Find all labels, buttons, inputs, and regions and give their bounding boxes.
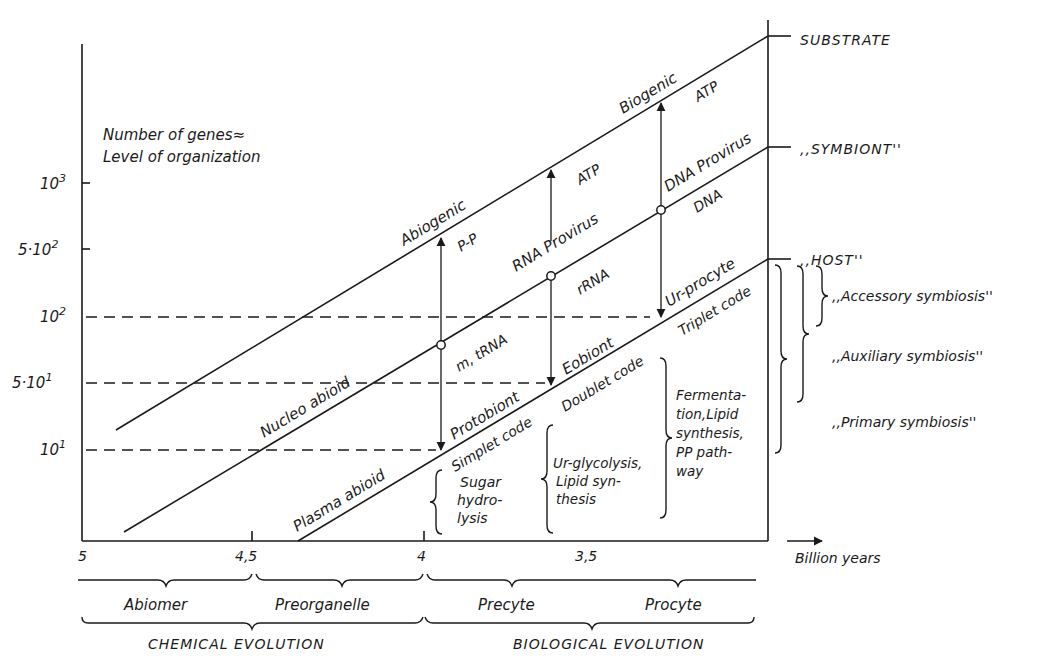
brace-fermentation <box>660 358 672 518</box>
era-biological-evolution: BIOLOGICAL EVOLUTION <box>513 636 704 652</box>
sugar-line-3: lysis <box>457 510 488 526</box>
brace-primary <box>775 265 787 453</box>
symbiosis-annotations: ,,Accessory symbiosis'' ,,Auxiliary symb… <box>775 265 993 453</box>
stage-preorganelle: Preorganelle <box>275 596 370 614</box>
level-symbiont: ,,SYMBIONT'' <box>800 141 902 157</box>
node-circle <box>657 206 665 214</box>
label-m-trna: m, tRNA <box>452 331 510 375</box>
x-tick-label: 5 <box>78 548 87 564</box>
label-pp: P-P <box>454 230 481 255</box>
fermentation-line-4: PP path- <box>676 444 732 460</box>
label-auxiliary-symbiosis: ,,Auxiliary symbiosis'' <box>832 348 983 364</box>
brace-glycolysis <box>541 425 553 533</box>
y-tick-labels: 103 5·102 102 5·101 101 <box>12 172 66 459</box>
x-tick-label: 4 <box>417 548 426 564</box>
node-circle <box>437 341 445 349</box>
stage-procyte: Procyte <box>645 596 702 614</box>
brace-chemical-evolution <box>82 617 423 629</box>
y-tick-label: 5·101 <box>12 371 52 392</box>
fermentation-line-3: synthesis, <box>676 425 744 441</box>
brace-precyte <box>427 574 600 586</box>
evolution-lines <box>116 36 768 541</box>
substrate-line <box>116 36 768 430</box>
glycolysis-line-2: Lipid syn- <box>556 473 621 489</box>
evolution-diagram: Number of genes≈ Level of organization 1… <box>0 0 1046 672</box>
brace-sugar <box>430 470 442 534</box>
y-tick-label: 101 <box>40 438 66 459</box>
label-biogenic: Biogenic <box>616 68 681 117</box>
label-primary-symbiosis: ,,Primary symbiosis'' <box>832 414 976 430</box>
stage-abiomer: Abiomer <box>123 596 188 614</box>
fermentation-line-5: way <box>676 463 704 479</box>
brace-biological-evolution <box>425 617 754 629</box>
y-axis-title-1: Number of genes≈ <box>103 126 245 144</box>
x-axis-label: Billion years <box>795 550 881 566</box>
x-tick-label: 3,5 <box>575 548 597 564</box>
sugar-line-2: hydro- <box>457 492 502 508</box>
y-axis-title-2: Level of organization <box>103 148 260 166</box>
gridlines <box>86 317 650 450</box>
label-dna-provirus: DNA Provirus <box>661 129 755 196</box>
arrows <box>437 103 665 450</box>
x-tick-label: 4,5 <box>235 548 257 564</box>
label-rna-provirus: RNA Provirus <box>509 209 602 275</box>
brace-auxiliary <box>797 266 809 402</box>
brace-preorganelle <box>256 574 423 586</box>
glycolysis-line-3: thesis <box>556 491 596 507</box>
stage-precyte: Precyte <box>478 596 535 614</box>
label-atp-1: ATP <box>572 160 603 188</box>
level-substrate: SUBSTRATE <box>800 32 891 48</box>
level-host: ,,HOST'' <box>800 252 864 268</box>
era-chemical-evolution: CHEMICAL EVOLUTION <box>148 636 325 652</box>
label-plasma-abioid: Plasma abioid <box>290 466 389 536</box>
label-accessory-symbiosis: ,,Accessory symbiosis'' <box>832 288 993 304</box>
glycolysis-line-1: Ur-glycolysis, <box>553 455 642 471</box>
y-tick-label: 102 <box>40 305 66 326</box>
label-rrna: rRNA <box>573 265 612 297</box>
y-tick-label: 103 <box>40 172 66 193</box>
sugar-line-1: Sugar <box>460 474 502 490</box>
brace-procyte <box>600 580 756 586</box>
fermentation-line-2: tion,Lipid <box>676 406 739 422</box>
stage-annotations: Abiomer Preorganelle Precyte Procyte CHE… <box>78 574 756 652</box>
brace-abiomer <box>78 574 252 586</box>
node-circle <box>547 272 555 280</box>
brace-accessory <box>816 266 828 326</box>
label-atp-2: ATP <box>690 77 721 105</box>
fermentation-line-1: Fermenta- <box>676 387 746 403</box>
y-tick-label: 5·102 <box>18 238 58 259</box>
